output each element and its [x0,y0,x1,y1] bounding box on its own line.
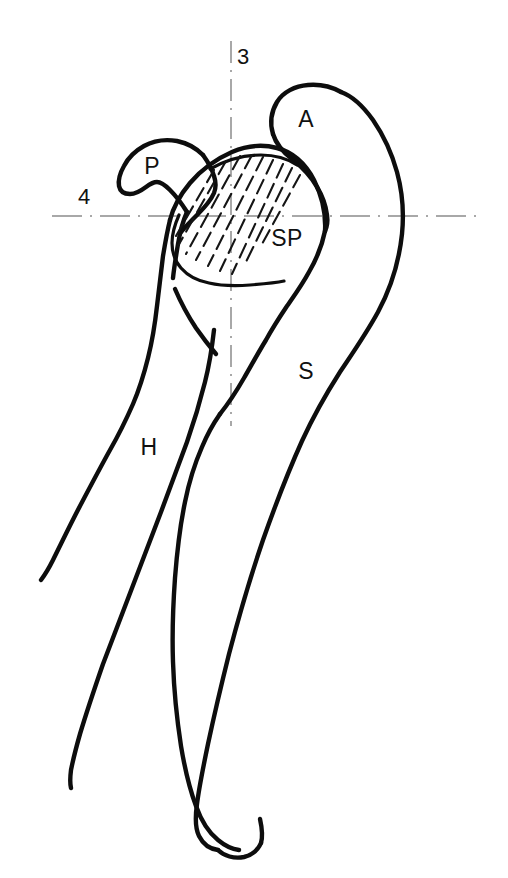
hatch-stroke-3 [208,157,263,266]
scapula-tip-connector [260,819,262,843]
coracoid-process-outline [119,140,203,212]
label-supraspinatus: SP [271,225,302,251]
scapula-lateral-border [196,92,403,850]
scapular-neck-contour [220,231,325,414]
label-acromion: A [298,106,314,132]
label-axis-vertical: 3 [237,44,249,69]
humerus-proximal-lateral-cortex [41,220,170,580]
label-coracoid-process: P [144,153,160,179]
label-scapula: S [298,358,314,384]
humerus-surgical-neck-line [175,289,216,354]
reference-axes [52,41,476,426]
figure-root: A P SP S H 3 4 [0,0,508,878]
shoulder-anatomy-drawing: A P SP S H 3 4 [0,0,508,878]
label-axis-horizontal: 4 [78,184,90,209]
coracoid-inferior-border [181,155,216,232]
coracoid-process-group [119,140,216,278]
humerus-medial-cortex [70,330,214,788]
figure-labels: A P SP S H 3 4 [78,44,314,460]
scapula-medial-border [173,414,239,850]
label-humerus: H [141,434,158,460]
